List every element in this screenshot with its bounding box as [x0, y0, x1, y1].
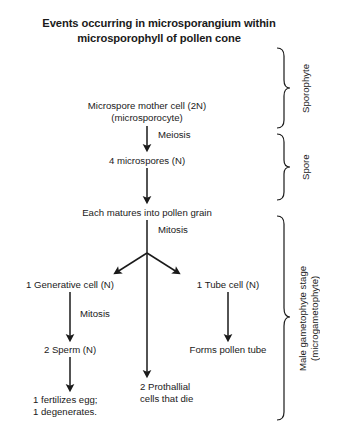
- branch-arrow-right: [147, 253, 177, 272]
- microsporogenesis-diagram: Events occurring in microsporangium with…: [0, 0, 340, 446]
- node-pollen-tube: Forms pollen tube: [190, 344, 267, 356]
- gametophyte-line-1: Male gametophyte stage: [297, 216, 309, 420]
- label-mitosis-left: Mitosis: [80, 308, 110, 320]
- mother-cell-line-1: Microspore mother cell (2N): [88, 100, 206, 112]
- node-prothallial-cells: 2 Prothallial cells that die: [140, 381, 193, 406]
- node-pollen-grain: Each matures into pollen grain: [82, 207, 212, 219]
- brace-label-spore: Spore: [300, 134, 312, 200]
- branch-arrow-left: [117, 253, 147, 272]
- label-mitosis-top: Mitosis: [158, 224, 188, 236]
- node-sperm: 2 Sperm (N): [44, 344, 96, 356]
- brace-label-sporophyte: Sporophyte: [300, 48, 312, 128]
- gametophyte-line-2: (microgametophyte): [309, 216, 321, 420]
- node-microspore-mother-cell: Microspore mother cell (2N) (microsporoc…: [88, 100, 206, 125]
- node-four-microspores: 4 microspores (N): [109, 155, 185, 167]
- prothallial-line-1: 2 Prothallial: [140, 381, 193, 393]
- brace-gametophyte: [277, 216, 290, 420]
- node-tube-cell: 1 Tube cell (N): [197, 279, 259, 291]
- node-generative-cell: 1 Generative cell (N): [26, 279, 114, 291]
- label-meiosis: Meiosis: [158, 129, 191, 141]
- brace-label-gametophyte: Male gametophyte stage (microgametophyte…: [297, 216, 320, 420]
- brace-spore: [277, 134, 290, 200]
- arrow-layer: [0, 0, 340, 446]
- prothallial-line-2: cells that die: [140, 393, 193, 405]
- fertilization-line-1: 1 fertilizes egg;: [33, 394, 98, 406]
- brace-sporophyte: [277, 48, 290, 128]
- mother-cell-line-2: (microsporocyte): [88, 112, 206, 124]
- fertilization-line-2: 1 degenerates.: [33, 406, 98, 418]
- node-fertilization-outcome: 1 fertilizes egg; 1 degenerates.: [33, 394, 98, 419]
